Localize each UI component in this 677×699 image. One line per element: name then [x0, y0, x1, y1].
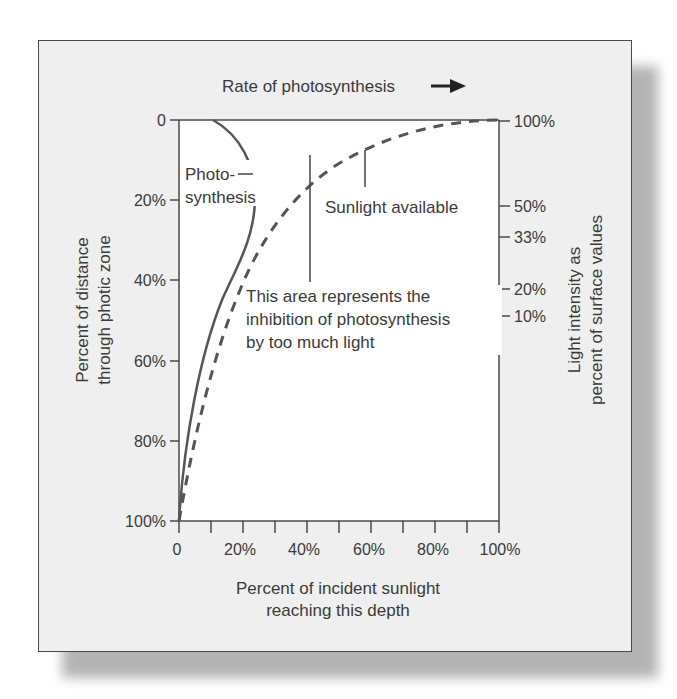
y-tick-100: 100%	[125, 513, 166, 530]
x-tick-40: 40%	[288, 541, 320, 558]
svg-text:Light intensity as: Light intensity as	[565, 247, 584, 374]
svg-text:Percent of distance: Percent of distance	[73, 237, 92, 383]
y2-tick-50: 50%	[514, 198, 546, 215]
x-axis-title: Percent of incident sunlight reaching th…	[236, 579, 440, 620]
svg-text:inhibition of photosynthesis: inhibition of photosynthesis	[246, 310, 450, 329]
y-tick-20: 20%	[134, 192, 166, 209]
x-tick-20: 20%	[224, 541, 256, 558]
x-axis-tick-labels: 0 20% 40% 60% 80% 100%	[173, 541, 521, 558]
svg-text:Percent of incident sunlight: Percent of incident sunlight	[236, 579, 440, 598]
svg-text:Photo-: Photo-	[185, 165, 235, 184]
y2-tick-33: 33%	[514, 229, 546, 246]
svg-text:This area represents the: This area represents the	[246, 287, 430, 306]
x-tick-0: 0	[173, 541, 182, 558]
svg-text:through photic zone: through photic zone	[95, 235, 114, 384]
svg-text:synthesis: synthesis	[185, 188, 256, 207]
x-tick-100: 100%	[480, 541, 521, 558]
y-axis-tick-labels: 0 20% 40% 60% 80% 100%	[125, 112, 166, 530]
y-axis-title: Percent of distance through photic zone	[73, 235, 114, 384]
y2-tick-10: 10%	[514, 308, 546, 325]
x-tick-80: 80%	[417, 541, 449, 558]
y2-tick-20: 20%	[514, 281, 546, 298]
y-tick-0: 0	[157, 112, 166, 129]
chart: Rate of photosynthesis 0 20% 40% 60% 80%…	[0, 0, 677, 699]
title-text: Rate of photosynthesis	[222, 77, 395, 96]
y2-axis-title: Light intensity as percent of surface va…	[565, 215, 606, 405]
chart-title: Rate of photosynthesis	[222, 77, 466, 96]
y-axis-ticks	[170, 120, 179, 521]
x-tick-60: 60%	[353, 541, 385, 558]
svg-text:percent of surface values: percent of surface values	[587, 215, 606, 405]
y-tick-60: 60%	[134, 353, 166, 370]
annotation-photosynthesis: Photo- synthesis	[183, 160, 275, 207]
svg-text:Sunlight available: Sunlight available	[325, 198, 458, 217]
arrow-right-icon	[431, 79, 466, 93]
y2-tick-100: 100%	[514, 113, 555, 130]
y2-axis-tick-labels: 100% 50% 33% 20% 10%	[514, 113, 555, 325]
y-tick-80: 80%	[134, 433, 166, 450]
y-tick-40: 40%	[134, 272, 166, 289]
svg-text:by too much light: by too much light	[246, 333, 375, 352]
x-axis-ticks	[179, 521, 499, 533]
svg-text:reaching this depth: reaching this depth	[266, 601, 410, 620]
